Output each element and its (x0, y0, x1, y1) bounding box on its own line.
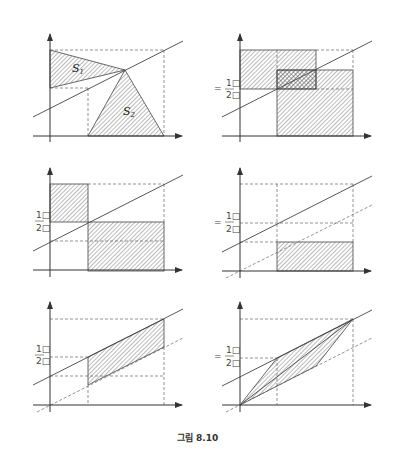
eq-sign: = (214, 217, 222, 227)
frac-den: 2□ (36, 356, 50, 366)
frac-num: 1□ (36, 210, 50, 220)
frac-num: 1□ (36, 344, 50, 354)
panel-1: S1 S2 (33, 34, 183, 142)
figure-8-10: S1 S2 = 1□ 2□ = 1□ 2□ (0, 0, 395, 460)
frac-den: 2□ (226, 224, 240, 234)
panel-3: = 1□ 2□ (24, 168, 183, 277)
frac-den: 2□ (36, 223, 50, 233)
panel-2: = 1□ 2□ (214, 34, 372, 142)
frac-num: 1□ (226, 345, 240, 355)
frac-num: 1□ (226, 78, 240, 88)
panel-5: = 1□ 2□ (24, 302, 183, 412)
figure-caption: 그림 8.10 (0, 431, 395, 444)
region-s2 (88, 70, 164, 136)
panel-6: = 1□ 2□ (214, 302, 372, 412)
frac-den: 2□ (226, 90, 240, 100)
panel-4: = 1□ 2□ (214, 168, 372, 278)
eq-sign: = (24, 350, 32, 360)
frac-num: 1□ (226, 211, 240, 221)
frac-den: 2□ (226, 358, 240, 368)
eq-sign: = (214, 83, 222, 93)
eq-sign: = (214, 351, 222, 361)
eq-sign: = (24, 205, 32, 215)
region-s1 (50, 50, 125, 88)
